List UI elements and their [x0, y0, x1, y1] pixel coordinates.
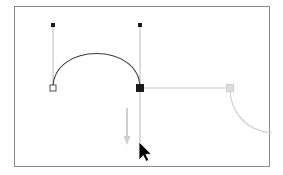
control-handle-dots	[51, 23, 142, 27]
drag-direction-arrow-down	[124, 108, 131, 145]
cursor-arrow-shape	[139, 142, 151, 161]
arch-bezier-path[interactable]	[53, 54, 140, 89]
anchor-point-start[interactable]	[50, 85, 56, 91]
drag-arrow-head	[124, 136, 131, 145]
ghost-handle-square[interactable]	[227, 85, 234, 92]
vector-canvas-svg[interactable]	[0, 0, 283, 175]
anchor-point-end[interactable]	[137, 85, 144, 92]
control-handle-dot-start-up[interactable]	[51, 23, 55, 27]
vector-editor-app	[0, 0, 283, 175]
anchor-points	[50, 85, 144, 92]
mouse-pointer-cursor	[139, 142, 151, 161]
ghost-curve-path	[230, 88, 272, 133]
control-handle-dot-end-up[interactable]	[138, 23, 142, 27]
